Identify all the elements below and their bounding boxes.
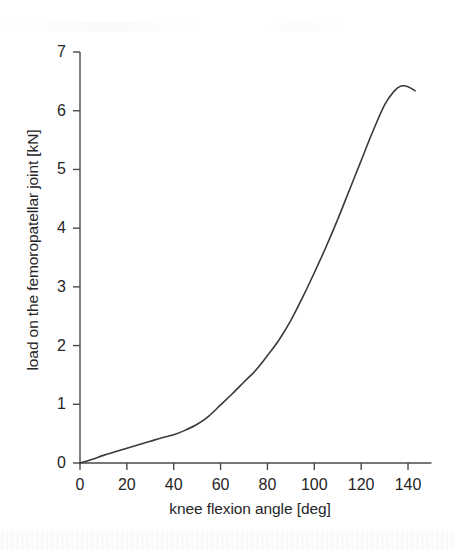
data-line [80, 86, 415, 463]
plot-area [0, 0, 454, 550]
axes [73, 52, 431, 470]
data-series [80, 86, 415, 463]
chart-figure: load on the femoropatellar joint [kN] kn… [0, 0, 454, 550]
